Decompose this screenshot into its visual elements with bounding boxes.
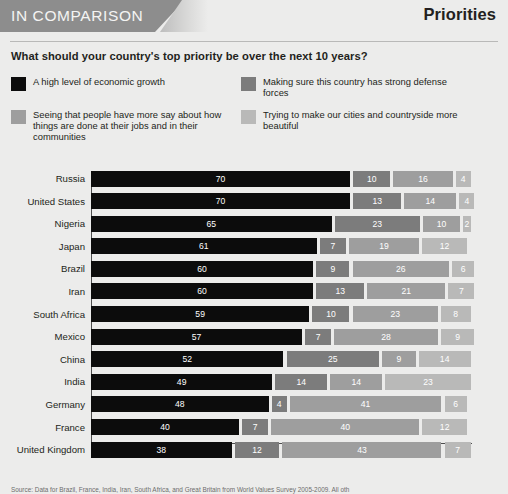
chart-row-label: United Kingdom (0, 444, 91, 455)
chart-row-bars: 7013144 (91, 193, 508, 209)
legend-swatch-defense-forces (241, 77, 256, 91)
bar-segment: 9 (441, 329, 474, 345)
legend-label-0: A high level of economic growth (33, 76, 165, 87)
legend-label-3: Trying to make our cities and countrysid… (263, 109, 468, 132)
bar-segment: 60 (91, 283, 313, 299)
bar-segment: 49 (91, 374, 272, 390)
chart-row-label: Russia (0, 173, 91, 184)
bar-segment: 2 (463, 216, 470, 232)
bar-segment: 26 (353, 261, 449, 277)
legend-label-1: Making sure this country has strong defe… (263, 76, 468, 99)
chart-row-bars: 577289 (91, 329, 508, 345)
chart-row: United States7013144 (0, 191, 508, 212)
legend-item-0: A high level of economic growth (11, 76, 241, 99)
chart-row-label: Mexico (0, 331, 91, 342)
bar-segment: 13 (316, 283, 364, 299)
bar-segment: 10 (423, 216, 460, 232)
bar-segment: 52 (91, 351, 283, 367)
source-note: Source: Data for Brazil, France, India, … (11, 486, 501, 494)
legend-label-2: Seeing that people have more say about h… (33, 109, 238, 143)
chart-row-label: South Africa (0, 309, 91, 320)
chart-row: France4074012 (0, 417, 508, 438)
chart-row-bars: 5225914 (91, 351, 508, 367)
chart-row-bars: 6523102 (91, 216, 508, 232)
bar-segment: 12 (235, 442, 279, 458)
in-comparison-banner: IN COMPARISON (0, 0, 185, 32)
bar-segment: 4 (456, 171, 471, 187)
bar-segment: 7 (305, 329, 331, 345)
bar-segment: 14 (419, 351, 471, 367)
bar-segment: 14 (275, 374, 327, 390)
chart-row: Brazil609266 (0, 258, 508, 279)
chart-row-label: Germany (0, 399, 91, 410)
bar-segment: 4 (459, 193, 474, 209)
chart-row: United Kingdom3812437 (0, 439, 508, 460)
bar-segment: 19 (349, 238, 419, 254)
bar-segment: 40 (91, 419, 239, 435)
bar-segment: 12 (422, 238, 466, 254)
chart-row-bars: 4074012 (91, 419, 508, 435)
chart-rows: Russia7010164United States7013144Nigeria… (0, 168, 508, 460)
chart-row-label: Iran (0, 286, 91, 297)
chart-row-label: Japan (0, 241, 91, 252)
chart-row-bars: 6171912 (91, 238, 508, 254)
chart-row: Iran6013217 (0, 281, 508, 302)
legend-item-1: Making sure this country has strong defe… (241, 76, 491, 99)
bar-segment: 8 (441, 306, 471, 322)
bar-segment: 7 (320, 238, 346, 254)
chart-row: Mexico577289 (0, 326, 508, 347)
chart-question: What should your country's top priority … (11, 50, 368, 62)
chart-row-bars: 484416 (91, 396, 508, 412)
legend-item-3: Trying to make our cities and countrysid… (241, 109, 491, 143)
chart-row-label: Brazil (0, 263, 91, 274)
bar-segment: 23 (353, 306, 438, 322)
chart-legend: A high level of economic growth Making s… (11, 76, 497, 142)
chart-row: South Africa5910238 (0, 304, 508, 325)
bar-segment: 70 (91, 171, 350, 187)
bar-segment: 70 (91, 193, 350, 209)
bar-segment: 13 (353, 193, 401, 209)
bar-segment: 7 (242, 419, 268, 435)
page-header: IN COMPARISON Priorities (0, 0, 508, 34)
bar-segment: 9 (316, 261, 349, 277)
bar-segment: 9 (382, 351, 415, 367)
legend-swatch-economic-growth (11, 77, 26, 91)
chart-row-label: India (0, 376, 91, 387)
chart-row: Russia7010164 (0, 168, 508, 189)
bar-segment: 10 (312, 306, 349, 322)
bar-segment: 6 (445, 396, 467, 412)
chart-row: India49141423 (0, 371, 508, 392)
bar-segment: 59 (91, 306, 309, 322)
chart-row-label: Nigeria (0, 218, 91, 229)
legend-swatch-more-beautiful (241, 110, 256, 124)
banner-label: IN COMPARISON (0, 7, 143, 25)
bar-segment: 28 (334, 329, 438, 345)
bar-segment: 41 (290, 396, 442, 412)
page-title: Priorities (423, 5, 496, 24)
bar-segment: 43 (282, 442, 441, 458)
chart-row: Germany484416 (0, 394, 508, 415)
bar-segment: 14 (404, 193, 456, 209)
chart-row-bars: 6013217 (91, 283, 508, 299)
chart-row-label: United States (0, 196, 91, 207)
chart-row-bars: 609266 (91, 261, 508, 277)
bar-segment: 7 (445, 442, 471, 458)
bar-segment: 40 (271, 419, 419, 435)
bar-segment: 23 (335, 216, 420, 232)
legend-item-2: Seeing that people have more say about h… (11, 109, 241, 143)
chart-row-label: France (0, 422, 91, 433)
bar-segment: 48 (91, 396, 269, 412)
chart-row: Nigeria6523102 (0, 213, 508, 234)
header-divider (10, 41, 498, 42)
legend-swatch-more-say (11, 110, 26, 124)
chart-row-label: China (0, 354, 91, 365)
bar-segment: 14 (330, 374, 382, 390)
bar-segment: 12 (422, 419, 466, 435)
chart-row: China5225914 (0, 349, 508, 370)
bar-segment: 16 (393, 171, 452, 187)
chart-row: Japan6171912 (0, 236, 508, 257)
bar-segment: 57 (91, 329, 302, 345)
chart-row-bars: 5910238 (91, 306, 508, 322)
comparison-page: IN COMPARISON Priorities What should you… (0, 0, 508, 494)
bar-segment: 10 (353, 171, 390, 187)
